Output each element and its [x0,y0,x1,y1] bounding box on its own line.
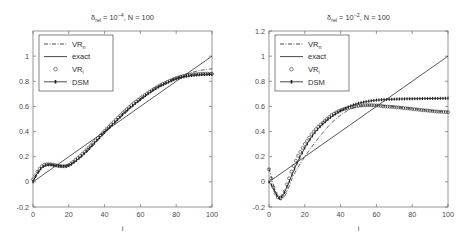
legend-sample-marker [291,80,293,84]
x-tick-label: 40 [337,210,345,219]
data-marker-dsm [309,138,310,141]
data-marker-dsm [378,98,379,101]
data-marker-dsm [81,154,82,157]
y-tick-label: -0.2 [17,203,29,212]
data-marker-dsm [53,164,54,167]
data-marker-dsm [325,120,326,123]
data-marker-dsm [381,98,382,101]
data-marker-dsm [132,104,133,107]
data-marker-dsm [307,142,308,145]
data-marker-dsm [135,102,136,105]
data-marker-dsm [117,118,118,121]
data-marker-dsm [204,73,205,76]
data-marker-dsm [188,74,189,77]
data-marker-dsm [173,78,174,81]
data-marker-dsm [345,107,346,110]
data-marker-dsm [368,100,369,103]
y-tick-label: 0.6 [255,102,265,111]
data-marker-dsm [297,161,298,164]
data-marker-dsm [350,104,351,107]
data-marker-dsm [96,139,97,142]
data-marker-dsm [48,163,49,166]
data-marker-dsm [353,103,354,106]
data-marker-dsm [145,94,146,97]
data-marker-dsm [284,191,285,194]
data-marker-dsm [286,185,287,188]
data-marker-dsm [32,180,33,183]
data-marker-dsm [153,89,154,92]
data-marker-dsm [101,133,102,136]
data-marker-dsm [91,144,92,147]
legend-label-vr-i[interactable]: VRi [308,65,320,75]
data-marker-dsm [322,123,323,126]
chart-title: δrel = 10−4, N = 100 [91,12,154,23]
data-marker-dsm [417,97,418,100]
data-marker-dsm [158,85,159,88]
data-marker-dsm [45,164,46,167]
data-marker-dsm [361,101,362,104]
data-marker-dsm [445,97,446,100]
data-marker-dsm [432,97,433,100]
chart-title: δrel = 10−2, N = 100 [327,12,390,23]
data-marker-dsm [211,73,212,76]
data-marker-dsm [112,123,113,126]
data-marker-dsm [386,98,387,101]
y-tick-label: 0.4 [255,127,265,136]
data-marker-dsm [289,180,290,183]
x-tick-label: 0 [31,210,35,219]
data-marker-dsm [109,126,110,129]
data-marker-dsm [366,100,367,103]
y-tick-label: -0.2 [253,203,265,212]
data-marker-dsm [122,113,123,116]
data-marker-dsm [330,116,331,119]
data-marker-circle [303,143,306,146]
x-tick-label: 60 [372,210,380,219]
y-tick-label: 0 [261,177,265,186]
data-marker-dsm [125,111,126,114]
legend-label-exact[interactable]: exact [72,52,91,61]
legend-label-exact[interactable]: exact [308,52,327,61]
data-marker-dsm [337,111,338,114]
data-marker-dsm [194,74,195,77]
data-marker-dsm [171,79,172,82]
data-marker-circle [299,151,302,154]
data-marker-dsm [407,97,408,100]
data-marker-dsm [206,73,207,76]
data-marker-dsm [35,175,36,178]
data-marker-dsm [399,97,400,100]
data-marker-dsm [114,121,115,124]
data-marker-dsm [404,97,405,100]
data-marker-dsm [73,161,74,164]
data-marker-dsm [268,180,269,183]
data-marker-dsm [279,197,280,200]
data-marker-dsm [142,96,143,99]
data-marker-dsm [320,125,321,128]
chart-panel-right: δrel = 10−2, N = 100020406080100-0.200.2… [236,0,472,242]
y-tick-label: 0.4 [19,127,29,136]
data-marker-dsm [435,97,436,100]
data-marker-dsm [391,98,392,101]
chart-svg-right: δrel = 10−2, N = 100020406080100-0.200.2… [236,0,472,242]
data-marker-dsm [76,159,77,162]
data-marker-dsm [68,164,69,167]
data-marker-dsm [355,103,356,106]
data-marker-dsm [371,99,372,102]
legend-label-vr-i[interactable]: VRi [72,65,84,75]
data-marker-dsm [50,163,51,166]
data-marker-dsm [89,147,90,150]
data-marker-dsm [332,114,333,117]
legend-label-dsm[interactable]: DSM [308,78,325,87]
data-marker-dsm [66,165,67,168]
data-marker-dsm [201,73,202,76]
data-marker-dsm [291,173,292,176]
data-marker-dsm [94,141,95,144]
data-marker-dsm [412,97,413,100]
legend-label-dsm[interactable]: DSM [72,78,89,87]
y-tick-label: 1 [261,52,265,61]
data-marker-dsm [140,98,141,101]
x-tick-label: 100 [442,210,454,219]
data-marker-dsm [271,184,272,187]
data-marker-dsm [312,134,313,137]
chart-panel-left: δrel = 10−4, N = 100020406080100-0.200.2… [0,0,236,242]
data-marker-dsm [294,167,295,170]
